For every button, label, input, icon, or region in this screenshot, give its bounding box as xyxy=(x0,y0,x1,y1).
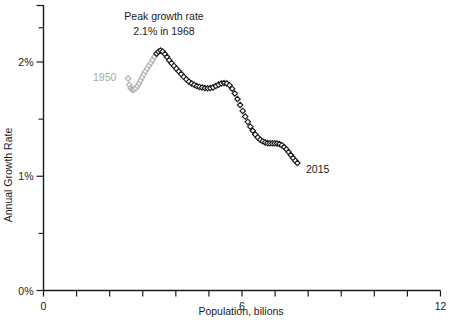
data-point-marker xyxy=(235,96,240,101)
x-axis-ticks xyxy=(44,291,441,297)
data-point-marker xyxy=(243,114,248,119)
y-axis-title: Annual Growth Rate xyxy=(2,128,14,223)
y-axis-ticks xyxy=(37,6,44,291)
data-point-marker xyxy=(232,91,237,96)
x-axis-title: Population, bilions xyxy=(198,305,283,317)
peak-annotation-line2: 2.1% in 1968 xyxy=(133,25,194,37)
data-point-marker xyxy=(240,108,245,113)
y-tick-label: 1% xyxy=(18,170,33,182)
x-tick-label: 0 xyxy=(41,300,47,312)
x-tick-label: 12 xyxy=(435,300,447,312)
end-year-label: 2015 xyxy=(306,163,330,175)
data-point-marker xyxy=(125,76,130,81)
data-point-marker xyxy=(245,119,250,124)
start-year-label: 1950 xyxy=(93,71,117,83)
axes xyxy=(44,5,441,291)
peak-annotation-line1: Peak growth rate xyxy=(124,10,204,22)
data-series-late-black xyxy=(154,48,300,166)
y-axis-tick-labels: 0%1%2% xyxy=(18,56,33,297)
y-tick-label: 2% xyxy=(18,56,33,68)
growth-rate-chart: 0%1%2% 0612 Peak growth rate 2.1% in 196… xyxy=(0,0,456,323)
y-tick-label: 0% xyxy=(18,285,33,297)
data-point-marker xyxy=(237,102,242,107)
data-series-early-gray xyxy=(125,54,157,92)
